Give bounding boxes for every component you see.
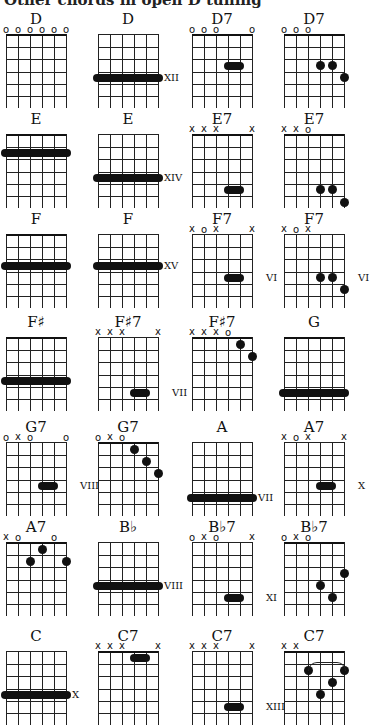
chord-diagram: E7xxo — [284, 110, 374, 210]
nut-line — [284, 337, 344, 339]
fret-line — [192, 467, 252, 468]
muted-string-icon: x — [106, 327, 114, 337]
fret-line — [284, 555, 344, 556]
fretboard-grid — [192, 442, 252, 516]
barre-icon — [316, 482, 336, 490]
fret-line — [6, 147, 66, 148]
fretboard-grid — [192, 234, 252, 308]
nut-line — [284, 34, 344, 36]
fret-line — [192, 247, 252, 248]
fret-line — [6, 467, 66, 468]
fret-line — [284, 504, 344, 505]
fret-line — [6, 247, 66, 248]
fretboard-grid — [98, 651, 158, 725]
chord-diagram: FXV — [98, 210, 188, 310]
fret-line — [98, 234, 158, 235]
fret-line — [284, 172, 344, 173]
finger-dot-icon — [316, 61, 325, 70]
string-line — [66, 234, 67, 308]
nut-line — [6, 134, 66, 136]
fret-line — [284, 455, 344, 456]
finger-dot-icon — [340, 198, 349, 207]
finger-dot-icon — [340, 569, 349, 578]
fret-line — [6, 689, 66, 690]
fretboard-grid — [284, 337, 344, 411]
fret-line — [192, 592, 252, 593]
fretboard-grid — [192, 337, 252, 411]
fret-line — [6, 651, 66, 652]
fret-line — [284, 480, 344, 481]
fretboard-grid — [6, 134, 66, 208]
barre-icon — [1, 149, 71, 157]
fret-line — [6, 362, 66, 363]
fretboard-grid — [192, 34, 252, 108]
barre-icon — [224, 703, 244, 711]
muted-string-icon: x — [212, 124, 220, 134]
fret-line — [98, 604, 158, 605]
nut-line — [284, 542, 344, 544]
fret-line — [6, 442, 66, 443]
fret-line — [98, 196, 158, 197]
finger-dot-icon — [328, 678, 337, 687]
fret-line — [284, 96, 344, 97]
muted-string-icon: x — [248, 532, 256, 542]
finger-dot-icon — [154, 469, 163, 478]
nut-line — [6, 542, 66, 544]
nut-line — [284, 134, 344, 136]
chord-diagram: B♭VIII — [98, 518, 188, 618]
muted-string-icon: x — [188, 641, 196, 651]
fret-position-label: X — [72, 690, 79, 700]
chord-diagram: C7xxxxXIII — [192, 627, 282, 727]
fret-line — [98, 387, 158, 388]
fret-line — [284, 59, 344, 60]
fret-line — [6, 196, 66, 197]
fret-line — [98, 504, 158, 505]
nut-line — [192, 337, 252, 339]
finger-dot-icon — [316, 273, 325, 282]
finger-dot-icon — [142, 457, 151, 466]
finger-dot-icon — [316, 690, 325, 699]
fret-line — [284, 399, 344, 400]
fret-line — [192, 399, 252, 400]
fret-line — [192, 555, 252, 556]
fret-line — [284, 272, 344, 273]
muted-string-icon: x — [292, 124, 300, 134]
muted-string-icon: x — [188, 124, 196, 134]
fretboard-grid — [98, 442, 158, 516]
fret-line — [192, 651, 252, 652]
fret-line — [192, 234, 252, 235]
string-line — [344, 542, 345, 616]
fret-line — [192, 375, 252, 376]
fret-line — [192, 567, 252, 568]
chord-diagram: G — [284, 313, 374, 413]
muted-string-icon: x — [154, 641, 162, 651]
fret-line — [98, 147, 158, 148]
chord-diagram: B♭7oxoxXI — [192, 518, 282, 618]
fret-line — [98, 247, 158, 248]
fret-line — [98, 492, 158, 493]
chord-diagram: A7xoxxX — [284, 418, 374, 518]
fret-position-label: VII — [172, 388, 187, 398]
fret-line — [98, 580, 158, 581]
string-line — [252, 234, 253, 308]
fret-line — [192, 604, 252, 605]
fret-line — [192, 689, 252, 690]
string-line — [252, 34, 253, 108]
muted-string-icon: x — [154, 327, 162, 337]
finger-dot-icon — [62, 557, 71, 566]
fret-line — [6, 664, 66, 665]
muted-string-icon: x — [94, 641, 102, 651]
fret-line — [6, 567, 66, 568]
fret-line — [6, 592, 66, 593]
fret-line — [192, 284, 252, 285]
nut-line — [192, 134, 252, 136]
fret-line — [6, 455, 66, 456]
string-line — [252, 542, 253, 616]
muted-string-icon: x — [248, 224, 256, 234]
fret-line — [98, 467, 158, 468]
fret-line — [284, 713, 344, 714]
fret-line — [98, 713, 158, 714]
muted-string-icon: x — [106, 641, 114, 651]
finger-dot-icon — [328, 185, 337, 194]
fret-line — [192, 580, 252, 581]
